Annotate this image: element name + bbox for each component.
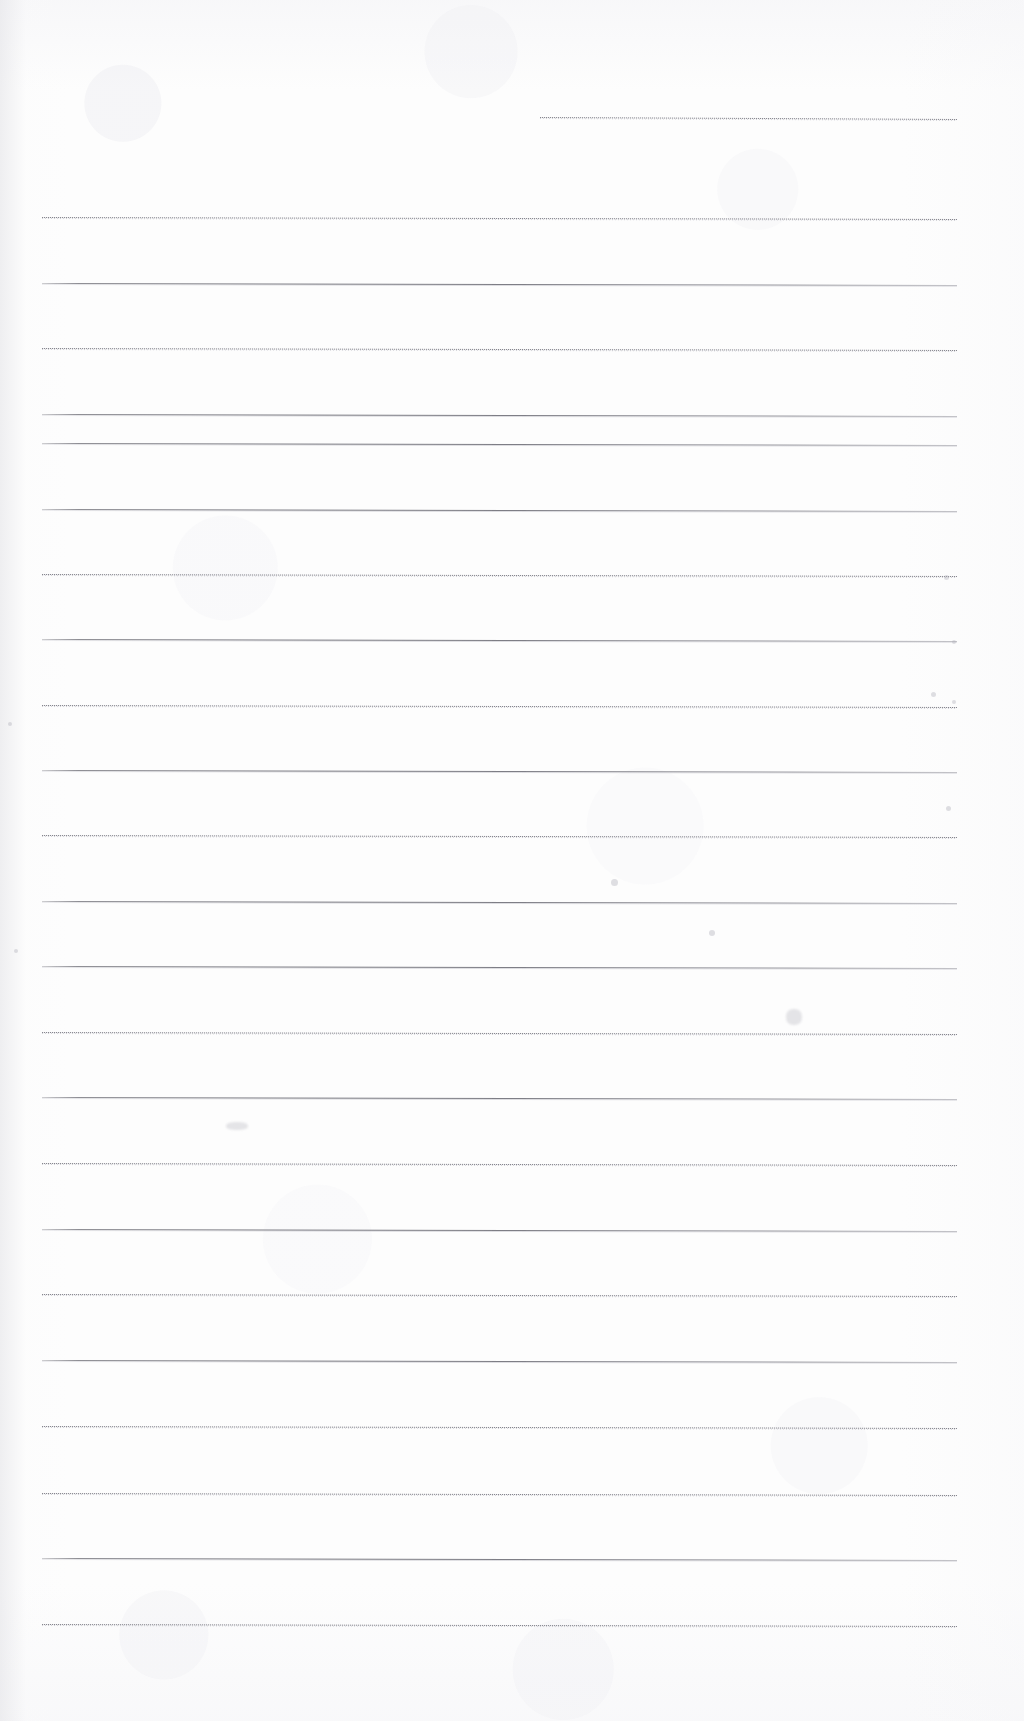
rule-line-1 <box>42 217 957 221</box>
rule-line-17 <box>42 1229 957 1233</box>
rule-line-2 <box>42 283 957 287</box>
rule-line-15 <box>42 1097 957 1101</box>
rule-line-18 <box>42 1294 957 1298</box>
scan-grain-overlay <box>0 0 1024 1721</box>
scan-speck-5 <box>946 806 951 811</box>
pencil-smudge-1 <box>786 1009 802 1025</box>
scan-speck-6 <box>8 722 12 726</box>
rule-line-16 <box>42 1163 957 1167</box>
rule-line-23 <box>42 1624 957 1628</box>
partial-top-rule-line <box>540 117 957 121</box>
rule-line-7 <box>42 574 957 578</box>
rule-line-13 <box>42 966 957 970</box>
rule-line-19 <box>42 1360 957 1364</box>
rule-line-3 <box>42 348 957 352</box>
scanned-page <box>0 0 1024 1721</box>
rule-line-8 <box>42 639 957 643</box>
scan-speck-8 <box>611 879 618 886</box>
rule-line-10 <box>42 770 957 774</box>
rule-line-14 <box>42 1032 957 1036</box>
rule-line-9 <box>42 705 957 709</box>
scan-speck-9 <box>709 930 715 936</box>
scan-speck-7 <box>14 949 18 953</box>
pencil-smudge-2 <box>226 1122 248 1130</box>
rule-line-6 <box>42 509 957 513</box>
rule-line-5 <box>42 443 957 447</box>
scan-speck-4 <box>952 700 956 704</box>
rule-line-12 <box>42 901 957 905</box>
rule-line-22 <box>42 1558 957 1562</box>
paper-tone-overlay <box>0 0 1024 1721</box>
rule-line-11 <box>42 835 957 839</box>
scan-speck-3 <box>931 692 936 697</box>
rule-line-21 <box>42 1493 957 1497</box>
rule-line-4 <box>42 414 957 418</box>
rule-line-20 <box>42 1426 957 1430</box>
